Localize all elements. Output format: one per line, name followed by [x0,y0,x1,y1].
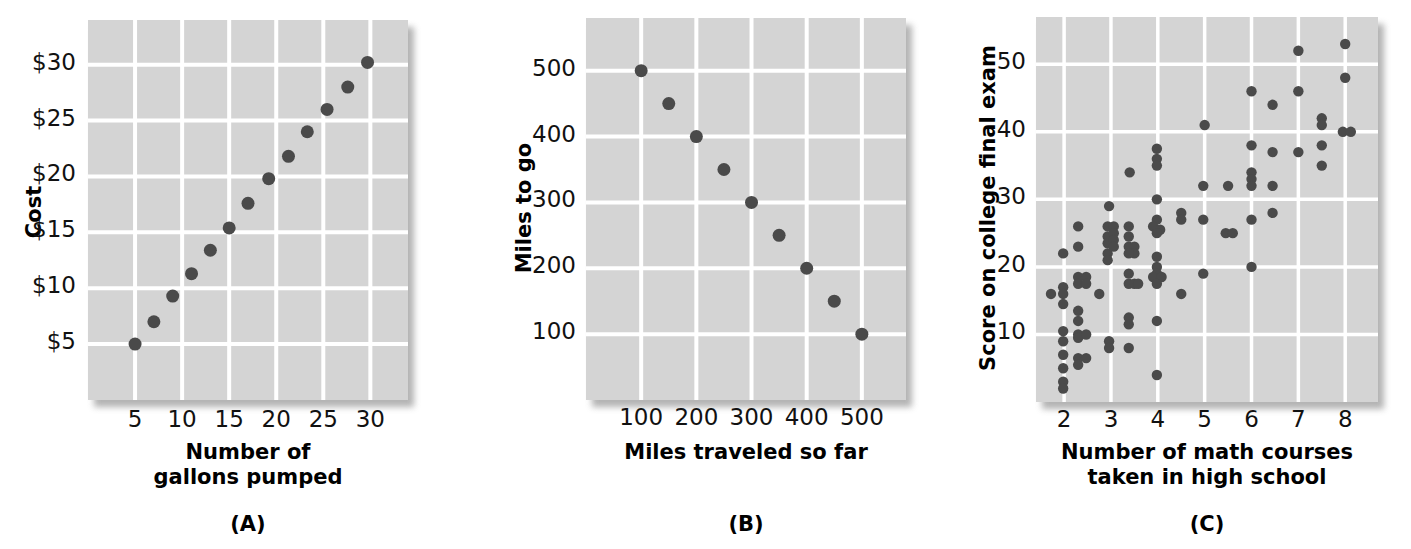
panel-a-xtick-2: 15 [204,406,254,432]
panel-b-ytick-3: 400 [492,121,576,147]
data-point [1124,343,1134,353]
data-point [1124,221,1134,231]
panel-a-xtick-0: 5 [110,406,160,432]
data-point [1073,306,1083,316]
panel-a-ytick-1: $10 [0,272,76,298]
panel-a-xtick-4: 25 [298,406,348,432]
panel-b-tag: (B) [586,512,906,536]
panel-c-xtick-0: 2 [1044,406,1084,432]
data-points [129,56,374,351]
data-point [1317,120,1327,130]
data-point [1176,289,1186,299]
data-point [321,103,334,116]
data-point [1152,228,1162,238]
data-point [1104,201,1114,211]
panel-c-xtick-4: 6 [1232,406,1272,432]
plot-c-canvas [1036,17,1378,402]
data-point [204,244,217,257]
plot-c-wrapper [1036,17,1378,402]
data-point [1081,279,1091,289]
data-point [1124,268,1134,278]
panel-b-xtick-3: 400 [777,404,837,430]
panel-c-ytick-1: 20 [962,251,1026,277]
panel-a: Cost $30 $25 $20 $15 $10 $5 5 10 15 20 2… [0,0,470,549]
panel-c-ytick-4: 50 [962,48,1026,74]
data-point [1267,181,1277,191]
panel-a-ytick-2: $15 [0,216,76,242]
data-point [1058,350,1068,360]
data-point [262,172,275,185]
data-point [1176,214,1186,224]
data-point [1340,39,1350,49]
data-point [1152,160,1162,170]
data-point [1058,336,1068,346]
data-point [1340,73,1350,83]
panel-a-xtick-3: 20 [251,406,301,432]
data-point [1094,289,1104,299]
data-point [147,315,160,328]
data-point [1246,262,1256,272]
data-point [223,221,236,234]
panel-a-ytick-0: $5 [0,328,76,354]
data-point [242,197,255,210]
data-point [662,97,675,110]
data-point [1293,46,1303,56]
panel-c-xtick-5: 7 [1278,406,1318,432]
plot-a-canvas [88,20,408,400]
panel-c-ytick-0: 10 [962,318,1026,344]
plot-b-canvas [586,18,906,400]
data-point [129,338,142,351]
data-point [800,262,813,275]
panel-b-xtick-4: 500 [832,404,892,430]
data-point [1058,326,1068,336]
data-point [1073,241,1083,251]
plot-b-wrapper [586,18,906,400]
panel-b-ytick-1: 200 [492,252,576,278]
data-point [828,295,841,308]
panel-a-xtick-5: 30 [345,406,395,432]
data-point [1073,221,1083,231]
data-point [1267,147,1277,157]
panel-c: Score on college final exam 50 40 30 20 … [940,0,1411,549]
data-point [1058,363,1068,373]
data-point [1223,181,1233,191]
data-point [1152,252,1162,262]
data-point [1346,127,1356,137]
data-point [745,196,758,209]
plot-a-wrapper [88,20,408,400]
data-point [1046,289,1056,299]
panel-a-ytick-5: $30 [0,49,76,75]
panel-b-xlabel: Miles traveled so far [560,440,932,465]
panel-a-ytick-3: $20 [0,160,76,186]
data-point [1152,316,1162,326]
data-point [1081,329,1091,339]
scatterplot-figure: Cost $30 $25 $20 $15 $10 $5 5 10 15 20 2… [0,0,1411,549]
data-point [1293,147,1303,157]
panel-c-tag: (C) [1036,512,1378,536]
panel-a-xlabel: Number of gallons pumped [88,440,408,490]
data-point [717,163,730,176]
data-point [1152,144,1162,154]
data-point [1124,231,1134,241]
data-point [635,64,648,77]
data-point [1058,299,1068,309]
data-point [1109,241,1119,251]
data-point [1152,194,1162,204]
data-point [1267,100,1277,110]
panel-c-xtick-3: 5 [1185,406,1225,432]
data-point [1104,343,1114,353]
data-point [301,125,314,138]
data-point [1246,86,1256,96]
panel-b-ytick-2: 300 [492,186,576,212]
data-point [282,150,295,163]
data-points [1046,39,1356,394]
gridlines [586,18,906,400]
data-point [1199,120,1209,130]
data-point [855,328,868,341]
data-point [1198,214,1208,224]
data-point [1267,208,1277,218]
panel-c-ytick-3: 40 [962,116,1026,142]
data-point [1073,360,1083,370]
panel-a-tag: (A) [88,512,408,536]
panel-c-xtick-2: 4 [1138,406,1178,432]
